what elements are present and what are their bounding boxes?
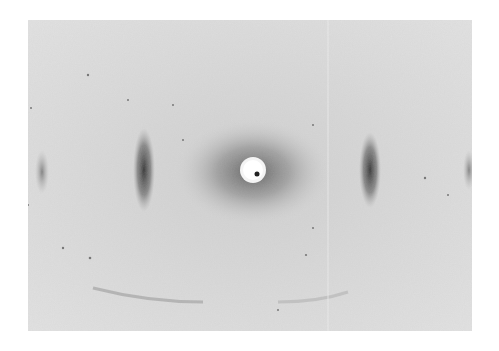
diffraction-film [28,20,472,331]
beam-center-dot [255,172,260,177]
diffraction-pattern [28,20,472,331]
beam-stop-core [243,160,263,180]
